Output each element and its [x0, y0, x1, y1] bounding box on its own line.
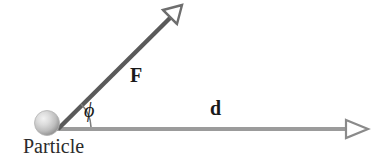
angle-phi-label: ϕ — [84, 100, 94, 120]
force-vector-line — [58, 18, 170, 129]
force-vector-label: F — [130, 65, 142, 85]
displacement-arrowhead-icon — [346, 120, 368, 138]
vector-diagram: F d ϕ Particle — [0, 0, 386, 162]
particle-label: Particle — [23, 136, 84, 156]
displacement-vector-label: d — [210, 98, 221, 118]
